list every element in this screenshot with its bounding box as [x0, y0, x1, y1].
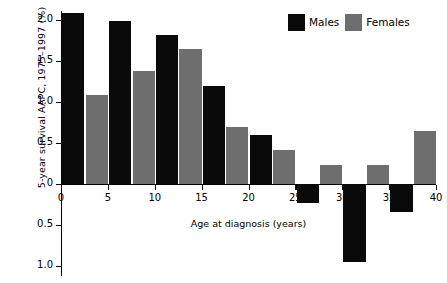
bar-males-age-15	[203, 86, 225, 184]
legend-item-males: Males	[288, 14, 339, 31]
x-axis-tick-label: 20	[237, 192, 261, 203]
y-axis-tick-label: 0.5	[37, 218, 53, 229]
x-axis-tick-label: 15	[190, 192, 214, 203]
y-axis-tick: 2.0	[56, 20, 61, 21]
y-axis-tick-label: 0.5	[37, 136, 53, 147]
plot-area: 2.01.51.00.500.51.0 0510152025303540	[61, 8, 436, 278]
y-axis-tick: 1.5	[56, 61, 61, 62]
bar-males-age-25	[297, 184, 319, 203]
y-axis-tick-label: 1.5	[37, 54, 53, 65]
chart-legend: Males Females	[288, 14, 410, 31]
x-axis-tick-label: 5	[96, 192, 120, 203]
bar-females-age-30	[367, 165, 389, 184]
bar-females-age-15	[226, 127, 248, 184]
legend-swatch-males-icon	[288, 14, 305, 31]
legend-swatch-females-icon	[345, 14, 362, 31]
bar-females-age-5	[133, 71, 155, 184]
y-axis-tick: 1.0	[56, 266, 61, 267]
bar-females-age-35	[414, 131, 436, 184]
bar-females-age-0	[86, 95, 108, 184]
y-axis-tick-label: 1.0	[37, 95, 53, 106]
y-axis-tick-label: 1.0	[37, 259, 53, 270]
y-axis-title: 5-year survival AAPC, 1975–1997 (%)	[36, 0, 47, 218]
y-axis-tick: 1.0	[56, 102, 61, 103]
x-axis-tick	[61, 185, 62, 190]
x-axis-title: Age at diagnosis (years)	[61, 218, 436, 229]
x-axis-tick-label: 0	[49, 192, 73, 203]
legend-label-females: Females	[366, 17, 409, 28]
bar-males-age-10	[156, 35, 178, 184]
x-axis-tick	[436, 185, 437, 190]
x-axis-tick	[249, 185, 250, 190]
legend-item-females: Females	[345, 14, 409, 31]
y-axis-tick-label: 2.0	[37, 13, 53, 24]
x-axis-tick	[202, 185, 203, 190]
x-axis-tick-label: 10	[143, 192, 167, 203]
bar-females-age-20	[273, 150, 295, 184]
x-axis-tick	[155, 185, 156, 190]
y-axis-tick-label: 0	[47, 177, 53, 188]
bar-males-age-0	[62, 13, 84, 184]
bar-females-age-25	[320, 165, 342, 184]
legend-label-males: Males	[309, 17, 339, 28]
bar-males-age-5	[109, 21, 131, 184]
x-axis-tick	[108, 185, 109, 190]
bar-males-age-20	[250, 135, 272, 184]
y-axis-tick: 0.5	[56, 143, 61, 144]
bar-males-age-35	[390, 184, 412, 212]
bar-females-age-10	[179, 49, 201, 184]
x-axis-tick-label: 40	[424, 192, 447, 203]
